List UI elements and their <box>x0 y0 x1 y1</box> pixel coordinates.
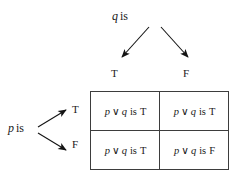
cell-value: T <box>140 106 146 117</box>
truth-table-diagram: qis pis T F T F p∨qisT <box>0 0 240 180</box>
cell-expr-left: p <box>174 106 179 117</box>
cell-verb: is <box>130 106 137 117</box>
cell-expr-right: q <box>191 106 196 117</box>
arrow-p-to-true <box>38 110 66 127</box>
arrow-p-to-false <box>38 133 66 150</box>
cell-operator: ∨ <box>181 106 189 117</box>
arrow-q-to-true <box>122 27 149 57</box>
cell-operator: ∨ <box>112 106 120 117</box>
cell-expr-right: q <box>122 106 127 117</box>
cell-operator: ∨ <box>112 145 120 156</box>
cell-false-false: p∨qisF <box>160 131 229 170</box>
table-row: p∨qisT p∨qisF <box>91 131 229 170</box>
cell-false-true: p∨qisT <box>91 131 160 170</box>
cell-verb: is <box>199 145 206 156</box>
table-row: p∨qisT p∨qisT <box>91 92 229 131</box>
cell-true-false: p∨qisT <box>160 92 229 131</box>
disjunction-result-table: p∨qisT p∨qisT p∨qisT p∨qisF <box>90 91 229 170</box>
cell-operator: ∨ <box>181 145 189 156</box>
cell-value: T <box>209 106 215 117</box>
cell-value: T <box>140 145 146 156</box>
cell-expr-left: p <box>105 145 110 156</box>
cell-expr-right: q <box>122 145 127 156</box>
arrow-q-to-false <box>161 27 188 57</box>
cell-verb: is <box>199 106 206 117</box>
cell-true-true: p∨qisT <box>91 92 160 131</box>
cell-expr-left: p <box>174 145 179 156</box>
cell-expr-left: p <box>105 106 110 117</box>
cell-value: F <box>209 145 215 156</box>
cell-expr-right: q <box>191 145 196 156</box>
cell-verb: is <box>130 145 137 156</box>
